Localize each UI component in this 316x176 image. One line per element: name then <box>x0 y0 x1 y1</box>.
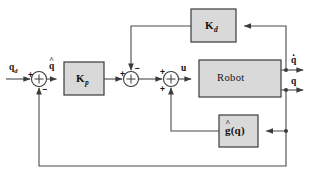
control-summing-junction-shape <box>164 72 179 87</box>
control-block-diagram: Kd Kp Robot ^g(q) qd ^q u ·q q + − + − +… <box>0 0 316 176</box>
sum1-sign-left: + <box>28 71 33 80</box>
gravity-compensation-block-label: ^g(q) <box>225 125 245 136</box>
damping-summing-junction-shape <box>124 72 139 87</box>
sum1-sign-bottom: − <box>43 85 48 94</box>
position-error-label: ^q <box>49 62 54 72</box>
sum3-sign-bottom: + <box>160 85 165 94</box>
proportional-gain-block-label: Kp <box>76 73 89 87</box>
sum2-sign-left: + <box>120 70 125 79</box>
robot-plant-block-label: Robot <box>217 73 245 84</box>
reference-input-label: qd <box>9 63 18 74</box>
joint-velocity-output-label: ·q <box>291 56 296 66</box>
derivative-gain-block-label: Kd <box>205 20 218 34</box>
sum3-sign-left: + <box>160 68 165 77</box>
control-input-label: u <box>181 64 186 74</box>
sum2-sign-top: − <box>135 64 140 73</box>
joint-position-output-label: q <box>291 77 296 87</box>
